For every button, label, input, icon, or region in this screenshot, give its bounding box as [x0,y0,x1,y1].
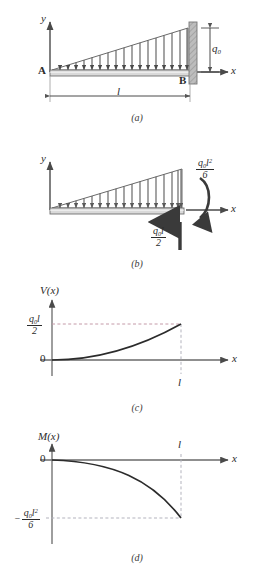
panel-a-point-a-label: A [38,64,46,76]
panel-a: y x A B q0 l (a) [0,0,274,140]
panel-b: y x q0l2 q0l26 (b) [0,142,274,284]
panel-b-x-axis-label: x [231,202,236,214]
panel-b-y-axis-label: y [41,152,46,164]
panel-c-origin-label: 0 [40,352,46,364]
panel-a-y-axis-label: y [41,12,46,24]
panel-d-origin-label: 0 [40,452,46,464]
panel-a-load-intensity-label: q0 [212,43,221,56]
panel-d-y-axis-label: M(x) [38,430,59,442]
panel-c: V(x) x 0 l q0l2 (c) [0,284,274,430]
panel-a-caption: (a) [0,112,274,123]
panel-c-peak-value-label: q0l2 [27,314,42,336]
panel-b-reaction-moment-label: q0l26 [196,158,214,180]
panel-a-point-b-label: B [179,74,186,86]
panel-c-tick-label-l: l [178,376,181,388]
panel-d-min-value-label: −q0l26 [14,508,40,530]
panel-c-caption: (c) [0,402,274,413]
panel-a-x-axis-label: x [231,64,236,76]
panel-d: M(x) x 0 l −q0l26 (d) [0,428,274,580]
panel-b-caption: (b) [0,258,274,269]
panel-b-reaction-force-label: q0l2 [151,226,166,248]
panel-d-tick-label-l: l [178,438,181,450]
panel-d-caption: (d) [0,552,274,563]
panel-c-x-axis-label: x [232,352,237,364]
panel-d-x-axis-label: x [232,452,237,464]
panel-c-y-axis-label: V(x) [40,284,59,296]
minus-sign: − [14,514,22,524]
panel-a-length-label: l [117,85,120,97]
